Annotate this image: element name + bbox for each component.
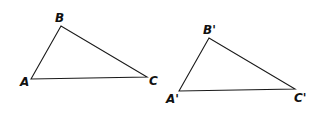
vertex-label-b-prime: B' [203, 23, 216, 37]
triangle-prime-outline [179, 38, 295, 91]
triangle-a-prime-b-prime-c-prime: A' B' C' [165, 23, 306, 106]
vertex-label-b: B [55, 11, 64, 25]
vertex-label-c-prime: C' [294, 91, 306, 105]
vertex-label-c: C [149, 74, 158, 88]
triangle-abc-outline [31, 26, 147, 79]
vertex-label-a-prime: A' [165, 92, 179, 106]
triangles-figure: A B C A' B' C' [0, 0, 321, 115]
vertex-label-a: A [19, 75, 29, 89]
diagram-canvas: A B C A' B' C' [0, 0, 321, 115]
triangle-abc: A B C [19, 11, 158, 89]
